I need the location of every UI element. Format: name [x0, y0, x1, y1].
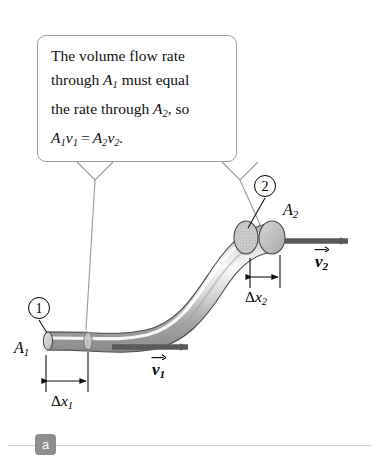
label-delta-x1: Δx1: [51, 392, 73, 411]
point-marker-1: 1: [28, 297, 50, 319]
dimension-delta-x1: [46, 352, 88, 392]
label-area-1: A1: [14, 339, 29, 358]
leader-line-point-1: [39, 320, 47, 333]
point-marker-2: 2: [254, 175, 276, 197]
tube-right-rim: [259, 221, 285, 254]
dimension-delta-x2: [250, 255, 280, 288]
label-velocity-1: v1: [152, 360, 165, 380]
callout-equation: A1v1=A2v2.: [51, 126, 231, 155]
label-delta-x2: Δx2: [245, 288, 267, 307]
callout-line-1: The volume flow rate: [51, 44, 231, 68]
tube-left-rim: [43, 332, 52, 350]
cross-section-area-1: [84, 332, 92, 350]
label-area-2: A2: [283, 201, 298, 220]
callout-line-2: through A1 must equal: [51, 68, 231, 97]
callout-text: The volume flow rate through A1 must equ…: [51, 44, 231, 155]
label-velocity-2: v2: [315, 252, 328, 272]
callout-line-3: the rate through A2, so: [51, 97, 231, 126]
callout-tail-left: [77, 162, 113, 330]
callout-box: The volume flow rate through A1 must equ…: [37, 35, 237, 162]
cross-section-area-2: [234, 221, 258, 254]
flow-tube: [43, 221, 285, 352]
flow-continuity-figure: The volume flow rate through A1 must equ…: [0, 0, 379, 466]
panel-label-badge: a: [35, 434, 56, 455]
